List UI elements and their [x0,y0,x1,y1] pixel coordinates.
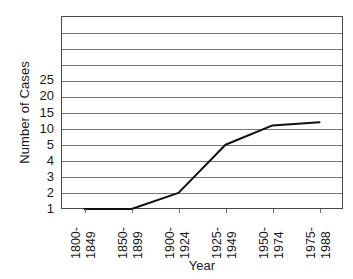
x-axis-tick-labels: 1800-18491850-18991900-19241925-19491950… [61,209,343,261]
x-tick-label: 1900-1924 [163,209,195,261]
x-tick-label-line: 1900- [163,207,178,259]
chart-figure: Number of Cases 2520151054321 1800-18491… [0,0,353,279]
series-polyline [85,122,320,209]
y-tick-label: 1 [8,202,54,215]
data-line-series [61,16,343,209]
x-tick-label-line: 1950- [257,207,272,259]
x-tick-label-line: 1850- [116,207,131,259]
x-tick-label: 1800-1849 [69,209,101,261]
y-tick-label: 5 [8,138,54,151]
y-tick-label: 10 [8,122,54,135]
y-tick-label: 20 [8,89,54,102]
x-tick-label: 1925-1949 [210,209,242,261]
x-tick-label-line: 1974 [272,207,287,259]
x-tick-label: 1975-1988 [304,209,336,261]
x-tick-label-line: 1975- [304,207,319,259]
x-tick-label-line: 1949 [225,207,240,259]
x-tick-label-line: 1849 [84,207,99,259]
y-tick-label: 4 [8,154,54,167]
x-tick-label-line: 1924 [178,207,193,259]
x-axis-title: Year [61,258,343,273]
y-axis-tick-labels: 2520151054321 [0,16,61,209]
x-tick-label-line: 1988 [319,207,334,259]
x-tick-label-line: 1800- [69,207,84,259]
y-tick-label: 15 [8,106,54,119]
x-tick-label: 1850-1899 [116,209,148,261]
y-tick-label: 2 [8,186,54,199]
x-tick-label: 1950-1974 [257,209,289,261]
y-tick-label: 25 [8,73,54,86]
x-tick-label-line: 1899 [131,207,146,259]
y-tick-label: 3 [8,170,54,183]
x-tick-label-line: 1925- [210,207,225,259]
